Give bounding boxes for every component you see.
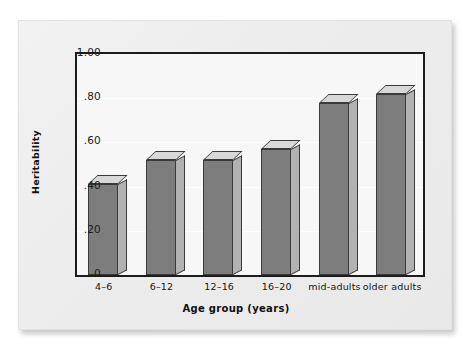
bar <box>319 103 349 275</box>
x-axis-tick-label: mid-adults <box>308 281 361 292</box>
x-axis-tick-label: 4–6 <box>95 281 112 292</box>
x-axis-tick-label: older adults <box>363 281 422 292</box>
bar <box>376 94 406 275</box>
bar-side-face <box>176 155 185 275</box>
y-axis-tick-label: .40 <box>57 179 101 191</box>
y-axis-title: Heritability <box>30 130 41 194</box>
bar-side-face <box>291 144 300 275</box>
bar-side-face <box>233 155 242 275</box>
bar <box>261 149 291 275</box>
gridline <box>77 142 423 143</box>
bar-front-face <box>261 149 291 275</box>
x-axis-title: Age group (years) <box>19 303 453 314</box>
x-axis-tick-label: 6–12 <box>150 281 174 292</box>
bar-side-face <box>406 89 415 275</box>
y-axis-tick-label: 0 <box>57 267 101 279</box>
x-axis-tick-label: 12–16 <box>204 281 234 292</box>
x-axis-tick-label: 16–20 <box>262 281 292 292</box>
plot-area <box>75 52 425 277</box>
bar-front-face <box>376 94 406 275</box>
bar-front-face <box>146 160 176 275</box>
gridline <box>77 187 423 188</box>
figure-card: Heritability Age group (years) 1.00.80.6… <box>18 20 452 330</box>
plot-inner <box>77 54 423 275</box>
bar <box>146 160 176 275</box>
y-axis-tick-label: .20 <box>57 223 101 235</box>
y-axis-tick-label: 1.00 <box>57 46 101 58</box>
gridline <box>77 231 423 232</box>
y-axis-tick-label: .60 <box>57 134 101 146</box>
y-axis-tick-label: .80 <box>57 90 101 102</box>
bar-front-face <box>319 103 349 275</box>
gridline <box>77 98 423 99</box>
bar-side-face <box>349 98 358 275</box>
bar-side-face <box>118 180 127 275</box>
bar-chart: Heritability Age group (years) 1.00.80.6… <box>19 21 453 331</box>
bar <box>203 160 233 275</box>
bar-front-face <box>203 160 233 275</box>
